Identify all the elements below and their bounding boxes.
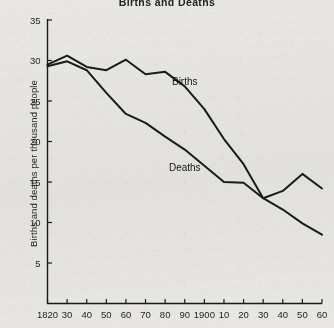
y-tick-label: 30	[30, 55, 41, 66]
x-tick-label: 20	[238, 309, 249, 320]
series-annotation-births: Births	[172, 76, 198, 87]
y-tick-label: 5	[35, 258, 40, 269]
chart-figure: Births and Deaths Births and deaths per …	[0, 0, 334, 328]
y-tick-label: 15	[30, 177, 41, 188]
y-tick-label: 20	[30, 136, 41, 147]
x-tick-label: 40	[277, 309, 288, 320]
y-tick-label: 10	[30, 217, 41, 228]
x-tick-label: 50	[297, 309, 308, 320]
x-tick-group: 1820304050607080901900102030405060	[37, 299, 327, 320]
x-tick-label: 1900	[194, 309, 215, 320]
chart-plot-area: 5101520253035 18203040506070809019001020…	[0, 0, 334, 328]
x-tick-label: 40	[81, 309, 92, 320]
x-tick-label: 90	[179, 309, 190, 320]
y-tick-label: 25	[30, 96, 41, 107]
x-tick-label: 80	[160, 309, 171, 320]
series-annotation-deaths: Deaths	[169, 162, 201, 173]
x-tick-label: 70	[140, 309, 151, 320]
x-tick-label: 60	[317, 309, 328, 320]
x-tick-label: 30	[258, 309, 269, 320]
y-tick-group: 5101520253035	[30, 15, 52, 269]
x-tick-label: 50	[101, 309, 112, 320]
y-tick-label: 35	[30, 15, 41, 26]
x-tick-label: 60	[121, 309, 132, 320]
x-tick-label: 30	[62, 309, 73, 320]
x-tick-label: 10	[219, 309, 230, 320]
x-tick-label: 1820	[37, 309, 58, 320]
